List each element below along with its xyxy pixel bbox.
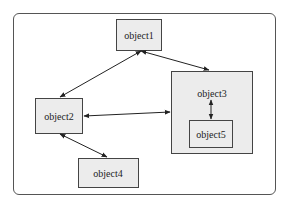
label-object1: object1 <box>124 30 153 41</box>
edge-object2-object4 <box>60 134 107 157</box>
edge-object1-object2 <box>60 51 141 97</box>
label-object4: object4 <box>93 168 122 179</box>
label-object3: object3 <box>197 88 226 99</box>
label-object2: object2 <box>44 111 73 122</box>
edge-object1-object3 <box>141 51 209 70</box>
label-object5: object5 <box>196 129 225 140</box>
edge-object2-object3 <box>84 112 170 116</box>
